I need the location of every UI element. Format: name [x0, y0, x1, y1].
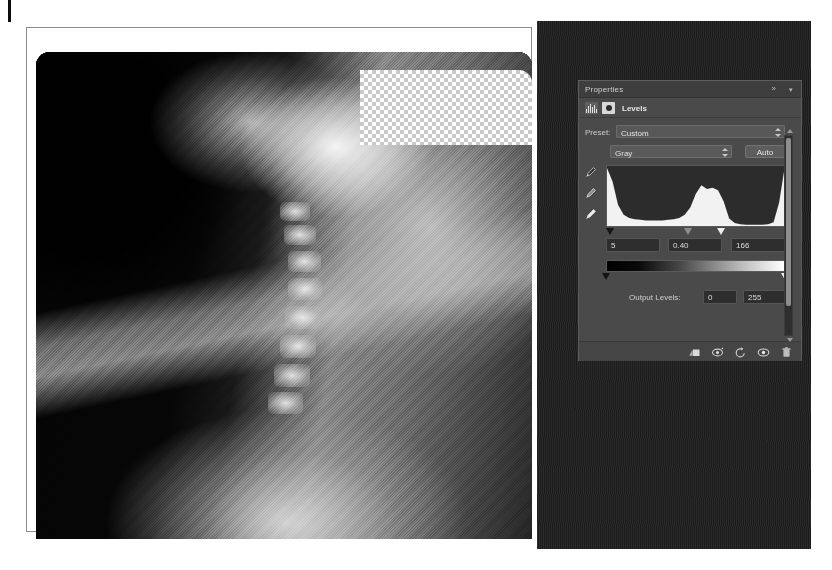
panel-tab-bar[interactable]: Properties » ▾ — [579, 81, 801, 98]
channel-dropdown[interactable]: Gray — [610, 145, 732, 158]
preset-label: Preset: — [585, 128, 610, 137]
output-black-slider[interactable] — [602, 273, 610, 280]
output-levels-gradient — [606, 260, 785, 272]
preset-value: Custom — [621, 129, 649, 138]
input-highlight-slider[interactable] — [717, 228, 725, 235]
input-shadow-field[interactable]: 5 — [606, 238, 660, 252]
delete-layer-button[interactable] — [780, 346, 793, 359]
preset-stepper[interactable] — [775, 128, 781, 137]
tab-properties[interactable]: Properties — [585, 85, 623, 94]
image-canvas[interactable] — [36, 52, 532, 539]
preset-row: Preset: Custom — [585, 125, 785, 138]
output-levels-label: Output Levels: — [629, 293, 681, 302]
output-white-field[interactable]: 255 — [743, 290, 785, 304]
document-window[interactable] — [26, 27, 532, 532]
levels-panel-body: Preset: Custom Gray Auto — [579, 118, 801, 361]
panel-scrollbar-thumb[interactable] — [786, 138, 791, 306]
levels-histogram[interactable] — [606, 165, 785, 227]
channel-row: Gray Auto — [610, 145, 785, 158]
set-black-point-eyedropper[interactable] — [584, 166, 597, 179]
adjustment-title-row: Levels — [579, 98, 801, 118]
auto-button[interactable]: Auto — [745, 145, 785, 158]
input-levels-slider-track[interactable] — [606, 228, 785, 237]
layer-mask-icon — [602, 102, 615, 114]
panel-footer-toolbar — [579, 341, 801, 361]
scroll-up-arrow-icon[interactable] — [787, 129, 793, 133]
output-levels-row: Output Levels: 0 255 — [629, 290, 785, 304]
input-midtone-slider[interactable] — [684, 228, 692, 235]
adjustment-title: Levels — [622, 104, 647, 113]
reset-button[interactable] — [734, 346, 747, 359]
input-highlight-field[interactable]: 166 — [731, 238, 785, 252]
preset-dropdown[interactable]: Custom — [616, 125, 785, 138]
channel-stepper[interactable] — [722, 148, 728, 157]
panel-scrollbar[interactable] — [784, 135, 793, 336]
set-gray-point-eyedropper[interactable] — [584, 187, 597, 200]
scroll-down-arrow-icon[interactable] — [787, 338, 793, 342]
histogram-plot — [607, 166, 784, 226]
view-previous-state-button[interactable] — [711, 346, 724, 359]
panel-menu-icon[interactable]: ▾ — [786, 86, 795, 93]
output-black-field[interactable]: 0 — [703, 290, 737, 304]
eyedropper-tool-column — [583, 166, 599, 230]
input-midtone-field[interactable]: 0.40 — [668, 238, 722, 252]
footer-icon-group — [688, 345, 793, 359]
histogram-icon — [585, 102, 598, 114]
clip-to-layer-button[interactable] — [688, 346, 701, 359]
set-white-point-eyedropper[interactable] — [584, 208, 597, 221]
toggle-layer-visibility-button[interactable] — [757, 346, 770, 359]
crop-tick-mark — [8, 0, 11, 22]
properties-panel[interactable]: Properties » ▾ Levels Preset: Custom — [578, 80, 802, 361]
input-levels-fields: 5 0.40 166 — [606, 238, 785, 252]
input-shadow-slider[interactable] — [606, 228, 614, 235]
transparency-checkerboard — [360, 70, 532, 145]
channel-value: Gray — [615, 149, 632, 158]
output-levels-slider-track[interactable] — [606, 273, 785, 282]
collapse-panel-icon[interactable]: » — [772, 85, 776, 93]
